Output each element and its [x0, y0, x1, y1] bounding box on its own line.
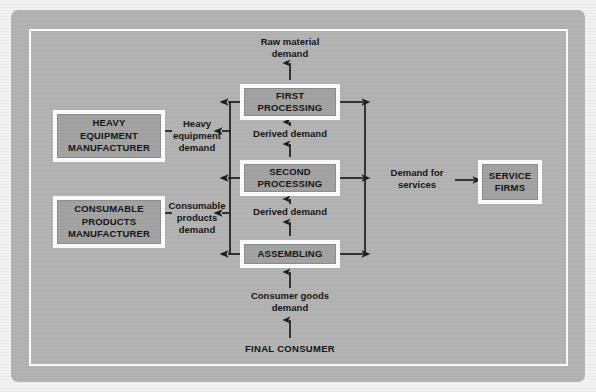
label-raw-material-demand: Raw materialdemand	[240, 36, 340, 60]
label-heavy-equipment-demand: Heavyequipmentdemand	[164, 118, 230, 154]
node-consumable-products-fill: CONSUMABLEPRODUCTSMANUFACTURER	[57, 200, 161, 244]
node-consumable-products-manufacturer[interactable]: CONSUMABLEPRODUCTSMANUFACTURER	[53, 196, 165, 248]
node-first-processing-label: FIRSTPROCESSING	[258, 90, 323, 115]
node-second-processing[interactable]: SECONDPROCESSING	[240, 160, 340, 196]
label-derived-demand-upper: Derived demand	[236, 128, 344, 140]
label-consumable-products-demand: Consumableproductsdemand	[161, 200, 233, 236]
node-first-processing[interactable]: FIRSTPROCESSING	[240, 84, 340, 120]
label-derived-demand-lower: Derived demand	[236, 206, 344, 218]
node-second-processing-label: SECONDPROCESSING	[258, 166, 323, 191]
node-assembling[interactable]: ASSEMBLING	[240, 240, 340, 268]
node-first-processing-fill: FIRSTPROCESSING	[244, 88, 336, 116]
node-service-firms[interactable]: SERVICEFIRMS	[478, 160, 542, 204]
demand-flow-figure: FIRSTPROCESSING SECONDPROCESSING ASSEMBL…	[0, 0, 596, 392]
node-heavy-equipment-label: HEAVYEQUIPMENTMANUFACTURER	[68, 117, 150, 155]
node-assembling-label: ASSEMBLING	[258, 248, 323, 261]
node-heavy-equipment-manufacturer[interactable]: HEAVYEQUIPMENTMANUFACTURER	[53, 110, 165, 162]
node-consumable-products-label: CONSUMABLEPRODUCTSMANUFACTURER	[68, 203, 150, 241]
label-consumer-goods-demand: Consumer goodsdemand	[230, 290, 350, 314]
node-service-firms-fill: SERVICEFIRMS	[482, 164, 538, 200]
node-assembling-fill: ASSEMBLING	[244, 244, 336, 264]
label-final-consumer: FINAL CONSUMER	[222, 343, 358, 355]
node-service-firms-label: SERVICEFIRMS	[489, 170, 532, 195]
node-heavy-equipment-fill: HEAVYEQUIPMENTMANUFACTURER	[57, 114, 161, 158]
node-second-processing-fill: SECONDPROCESSING	[244, 164, 336, 192]
label-demand-for-services: Demand forservices	[381, 167, 453, 191]
